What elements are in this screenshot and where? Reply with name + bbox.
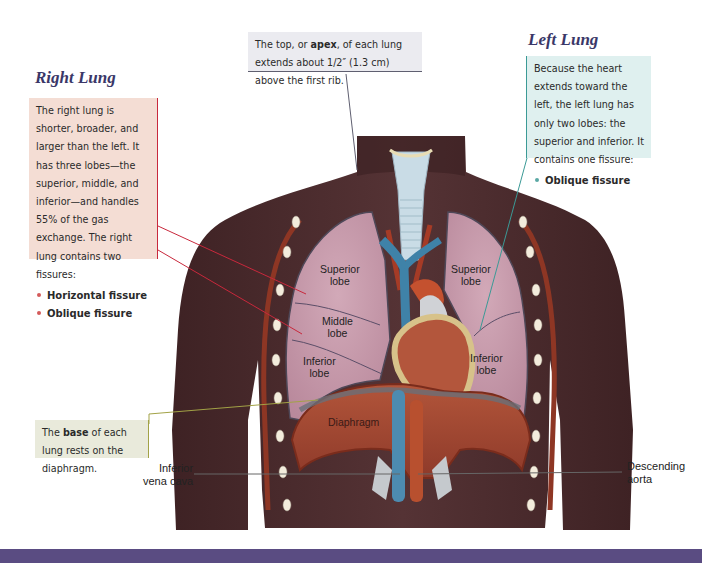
bullet-icon — [37, 311, 41, 315]
fissure-item: Horizontal fissure — [36, 287, 150, 305]
apex-callout: The top, or apex, of each lung extends a… — [248, 32, 422, 72]
label-right-inferior-lobe: Inferiorlobe — [303, 355, 336, 379]
left-lung-callout: Because the heart extends toward the lef… — [526, 56, 651, 158]
fissure-item: Oblique fissure — [36, 305, 150, 323]
bullet-icon — [37, 293, 41, 297]
descending-aorta-shape — [410, 400, 423, 502]
right-lung-callout: The right lung is shorter, broader, and … — [29, 98, 158, 259]
bullet-icon — [535, 178, 539, 182]
fissure-label: Oblique fissure — [545, 175, 630, 186]
right-lung-heading: Right Lung — [35, 68, 116, 88]
base-callout: The base of each lung rests on the diaph… — [35, 420, 149, 458]
fissure-label: Oblique fissure — [47, 308, 132, 319]
label-inferior-vena-cava: Inferiorvena cava — [143, 462, 193, 488]
base-term: base — [63, 427, 89, 438]
label-left-superior-lobe: Superiorlobe — [451, 263, 491, 287]
bottom-bar — [0, 549, 702, 563]
fissure-item: Oblique fissure — [534, 172, 644, 190]
left-lung-fissure-list: Oblique fissure — [534, 172, 644, 190]
apex-term: apex — [311, 39, 337, 50]
base-description: The base of each lung rests on the diaph… — [42, 424, 141, 479]
label-right-superior-lobe: Superiorlobe — [320, 263, 360, 287]
label-left-inferior-lobe: Inferiorlobe — [470, 352, 503, 376]
right-lung-fissure-list: Horizontal fissure Oblique fissure — [36, 287, 150, 323]
apex-description: The top, or apex, of each lung extends a… — [255, 36, 415, 91]
right-lung-description: The right lung is shorter, broader, and … — [36, 102, 150, 284]
apex-text-pre: The top, or — [255, 39, 311, 50]
label-diaphragm: Diaphragm — [328, 416, 379, 428]
base-text-pre: The — [42, 427, 63, 438]
left-lung-heading: Left Lung — [528, 30, 598, 50]
inferior-vena-cava-shape — [392, 390, 405, 502]
left-lung-description: Because the heart extends toward the lef… — [534, 60, 644, 169]
label-descending-aorta: Descendingaorta — [627, 460, 685, 486]
fissure-label: Horizontal fissure — [47, 290, 147, 301]
label-right-middle-lobe: Middlelobe — [322, 315, 353, 339]
